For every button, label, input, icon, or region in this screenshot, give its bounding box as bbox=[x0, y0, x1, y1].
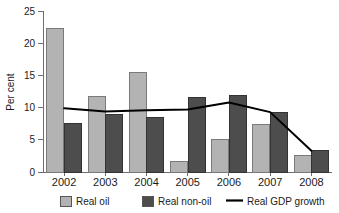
bar-real-non-oil bbox=[312, 151, 329, 172]
bar-real-non-oil bbox=[106, 115, 123, 172]
bar-real-oil bbox=[171, 161, 188, 172]
y-tick-label: 20 bbox=[24, 38, 36, 49]
bar-real-oil bbox=[129, 73, 146, 172]
y-tick-label: 25 bbox=[24, 6, 36, 17]
legend-swatch bbox=[142, 196, 153, 206]
bar-real-non-oil bbox=[64, 123, 81, 172]
y-tick-label: 0 bbox=[29, 167, 35, 178]
chart-container: Per cent 0510152025 20022003200420052006… bbox=[0, 0, 339, 213]
y-axis-title: Per cent bbox=[5, 73, 16, 110]
chart-legend: Real oilReal non-oilReal GDP growth bbox=[60, 196, 325, 207]
y-axis-ticks: 0510152025 bbox=[24, 6, 44, 178]
x-tick-label: 2006 bbox=[217, 176, 241, 188]
bar-line-chart: Per cent 0510152025 20022003200420052006… bbox=[0, 0, 339, 213]
x-tick-label: 2007 bbox=[258, 176, 282, 188]
x-tick-label: 2008 bbox=[299, 176, 323, 188]
x-tick-label: 2003 bbox=[93, 176, 117, 188]
x-tick-label: 2002 bbox=[52, 176, 76, 188]
x-tick-label: 2004 bbox=[134, 176, 158, 188]
bar-real-oil bbox=[294, 155, 311, 172]
legend-label: Real oil bbox=[76, 196, 109, 207]
y-tick-label: 15 bbox=[24, 70, 36, 81]
bar-real-oil bbox=[253, 124, 270, 172]
x-tick-label: 2005 bbox=[176, 176, 200, 188]
legend-label: Real GDP growth bbox=[247, 196, 325, 207]
legend-swatch bbox=[60, 196, 71, 206]
bar-real-oil bbox=[47, 28, 64, 172]
bar-real-oil bbox=[212, 139, 229, 172]
bar-real-oil bbox=[88, 97, 105, 172]
legend-label: Real non-oil bbox=[158, 196, 211, 207]
y-tick-label: 10 bbox=[24, 102, 36, 113]
bar-real-non-oil bbox=[147, 117, 164, 172]
x-axis-category-labels: 2002200320042005200620072008 bbox=[52, 176, 324, 188]
y-tick-label: 5 bbox=[29, 134, 35, 145]
y-axis-title-text: Per cent bbox=[5, 73, 16, 110]
